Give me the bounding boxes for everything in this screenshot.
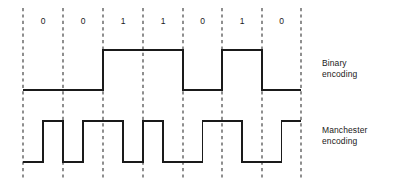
manchester-label-line2: encoding: [322, 136, 367, 147]
binary-label-line1: Binary: [322, 58, 357, 69]
bit-label-2: 1: [103, 16, 143, 26]
bit-label-0: 0: [23, 16, 63, 26]
binary-waveform: [23, 50, 301, 90]
manchester-signal-trace: [23, 121, 301, 162]
manchester-label-line1: Manchester: [322, 125, 367, 136]
gridlines-group: [23, 8, 301, 178]
binary-label-line2: encoding: [322, 69, 357, 80]
manchester-encoding-diagram: 0011010 Binary encoding Manchester encod…: [0, 0, 396, 182]
binary-encoding-label: Binary encoding: [322, 58, 357, 80]
bit-label-5: 1: [222, 16, 262, 26]
bit-label-1: 0: [63, 16, 103, 26]
waveform-canvas: [0, 0, 396, 182]
binary-signal-trace: [23, 50, 301, 90]
manchester-waveform: [23, 121, 301, 162]
bit-label-6: 0: [262, 16, 302, 26]
manchester-encoding-label: Manchester encoding: [322, 125, 367, 147]
bit-label-3: 1: [143, 16, 183, 26]
bit-label-4: 0: [183, 16, 223, 26]
